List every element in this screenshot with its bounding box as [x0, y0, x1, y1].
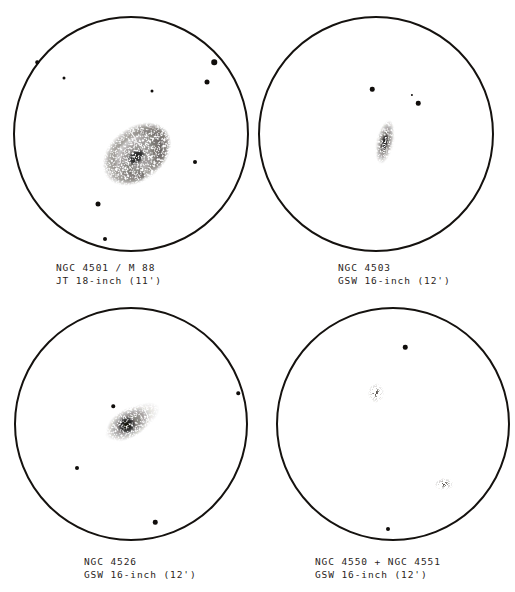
star: [386, 527, 390, 531]
galaxy-ngc-4550: [367, 382, 385, 404]
field-of-view-circle: [276, 307, 510, 541]
panel-ngc4550-4551: NGC 4550 + NGC 4551GSW 16-inch (12'): [0, 0, 515, 592]
galaxy-ngc-4551: [433, 477, 455, 491]
star: [403, 345, 408, 350]
caption-observer-instrument: GSW 16-inch (12'): [315, 569, 441, 582]
caption-object-designation: NGC 4550 + NGC 4551: [315, 556, 441, 567]
panel-caption: NGC 4550 + NGC 4551GSW 16-inch (12'): [315, 556, 441, 581]
sketch-plate: NGC 4501 / M 88JT 18-inch (11')NGC 4503G…: [0, 0, 515, 592]
